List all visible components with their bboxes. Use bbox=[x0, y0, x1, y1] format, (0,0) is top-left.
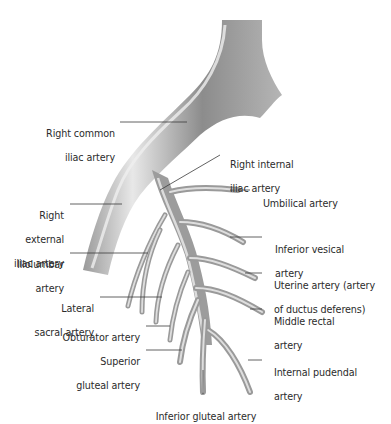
label-internal-pudendal-artery: Internal pudendal artery bbox=[268, 355, 357, 403]
label-iliolumbar-artery: Iliolumbar artery bbox=[0, 247, 64, 295]
label-line: iliac artery bbox=[65, 152, 115, 163]
label-line: Superior bbox=[100, 356, 140, 367]
label-line: external bbox=[25, 234, 64, 245]
label-line: Iliolumbar bbox=[17, 259, 64, 270]
label-line: Lateral bbox=[61, 303, 94, 314]
label-line: Inferior gluteal artery bbox=[156, 411, 257, 422]
label-middle-rectal-artery: Middle rectal artery bbox=[268, 304, 335, 352]
label-line: Right bbox=[39, 210, 64, 221]
label-right-common-iliac-artery: Right common iliac artery bbox=[10, 116, 115, 164]
label-line: Right internal bbox=[230, 159, 294, 170]
label-line: Internal pudendal bbox=[274, 367, 357, 378]
label-umbilical-artery: Umbilical artery bbox=[257, 186, 338, 210]
label-line: Inferior vesical bbox=[275, 244, 344, 255]
label-line: Middle rectal bbox=[274, 316, 335, 327]
label-superior-gluteal-artery: Superior gluteal artery bbox=[40, 344, 140, 392]
label-line: Uterine artery (artery bbox=[274, 280, 375, 291]
label-inferior-gluteal-artery: Inferior gluteal artery bbox=[133, 399, 273, 423]
label-line: Obturator artery bbox=[63, 332, 140, 343]
label-line: artery bbox=[274, 340, 303, 351]
label-line: Umbilical artery bbox=[263, 198, 338, 209]
label-obturator-artery: Obturator artery bbox=[20, 320, 140, 344]
label-line: gluteal artery bbox=[76, 380, 140, 391]
label-line: artery bbox=[274, 391, 303, 402]
label-line: Right common bbox=[46, 128, 115, 139]
